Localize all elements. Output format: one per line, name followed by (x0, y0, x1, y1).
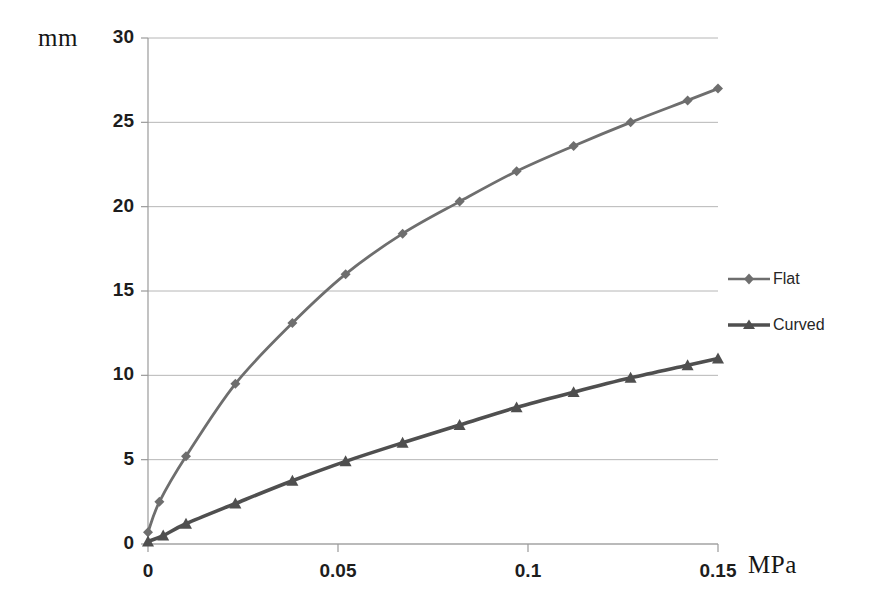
chart-page: mm MPa 051015202530 00.050.10.15 Flat Cu… (0, 0, 879, 615)
data-point-marker-diamond (154, 497, 164, 507)
legend-item-flat[interactable]: Flat (727, 270, 825, 288)
data-point-marker-diamond (569, 141, 579, 151)
y-axis-tick-label: 25 (88, 110, 134, 132)
data-point-marker-diamond (683, 95, 693, 105)
tick-marks-group (141, 38, 718, 552)
x-axis-tick-label: 0.05 (298, 560, 378, 582)
y-axis-tick-label: 20 (88, 195, 134, 217)
y-axis-tick-label: 15 (88, 279, 134, 301)
legend-marker-triangle-icon (727, 317, 771, 333)
legend-item-curved[interactable]: Curved (727, 316, 825, 334)
legend-label-curved: Curved (773, 316, 825, 334)
x-axis-tick-label: 0.1 (488, 560, 568, 582)
x-axis-tick-label: 0 (108, 560, 188, 582)
data-point-marker-diamond (626, 117, 636, 127)
data-point-marker-diamond (512, 166, 522, 176)
legend-marker-diamond-icon (727, 271, 771, 287)
y-axis-tick-label: 10 (88, 363, 134, 385)
series-line-flat (148, 89, 718, 533)
y-axis-tick-label: 30 (88, 26, 134, 48)
gridlines-group (148, 38, 718, 544)
chart-legend: Flat Curved (727, 270, 825, 334)
legend-label-flat: Flat (773, 270, 800, 288)
y-axis-tick-label: 5 (88, 448, 134, 470)
y-axis-tick-label: 0 (88, 532, 134, 554)
data-point-marker-diamond (713, 84, 723, 94)
data-series-group (142, 84, 724, 547)
x-axis-tick-label: 0.15 (678, 560, 758, 582)
